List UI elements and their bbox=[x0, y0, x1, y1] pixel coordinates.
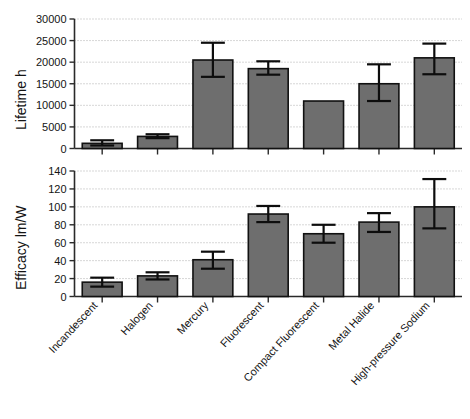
top-axis-title: Lifetime h bbox=[13, 69, 29, 130]
category-axis-labels: IncandescentHalogenMercuryFluorescentCom… bbox=[46, 299, 432, 388]
y-tick-label: 15000 bbox=[36, 78, 67, 90]
dual-bar-chart: 050001000015000200002500030000 Lifetime … bbox=[0, 0, 470, 419]
y-tick-label: 140 bbox=[48, 165, 66, 177]
category-label: Metal Halide bbox=[326, 299, 376, 352]
y-tick-label: 40 bbox=[54, 255, 66, 267]
bar bbox=[248, 214, 288, 296]
figure-container: 050001000015000200002500030000 Lifetime … bbox=[0, 0, 470, 419]
y-tick-label: 5000 bbox=[42, 121, 66, 133]
bar bbox=[248, 69, 288, 149]
bottom-axis-title: Efficacy lm/W bbox=[13, 205, 29, 290]
bar bbox=[304, 101, 344, 148]
bottom-y-ticks: 020406080100120140 bbox=[48, 165, 74, 303]
top-panel: 050001000015000200002500030000 Lifetime … bbox=[13, 13, 462, 155]
y-tick-label: 20 bbox=[54, 273, 66, 285]
bottom-x-ticks bbox=[102, 297, 434, 303]
category-label: Fluorescent bbox=[218, 299, 266, 349]
y-tick-label: 25000 bbox=[36, 35, 67, 47]
category-label: Halogen bbox=[118, 299, 155, 337]
bar bbox=[359, 222, 399, 296]
y-tick-label: 20000 bbox=[36, 56, 67, 68]
y-tick-label: 0 bbox=[60, 291, 66, 303]
y-tick-label: 0 bbox=[60, 143, 66, 155]
bottom-panel: 020406080100120140 Efficacy lm/W bbox=[13, 165, 462, 303]
y-tick-label: 120 bbox=[48, 183, 66, 195]
top-y-ticks: 050001000015000200002500030000 bbox=[36, 13, 75, 155]
category-label: Mercury bbox=[174, 299, 210, 337]
y-tick-label: 80 bbox=[54, 219, 66, 231]
y-tick-label: 10000 bbox=[36, 99, 67, 111]
top-x-ticks bbox=[102, 149, 434, 155]
y-tick-label: 30000 bbox=[36, 13, 67, 25]
y-tick-label: 100 bbox=[48, 201, 66, 213]
category-label: Incandescent bbox=[46, 299, 99, 355]
y-tick-label: 60 bbox=[54, 237, 66, 249]
